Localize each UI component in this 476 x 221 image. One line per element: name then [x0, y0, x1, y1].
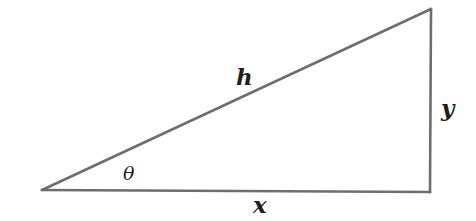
opposite-label: y: [440, 94, 456, 121]
hypotenuse-label: h: [236, 63, 253, 90]
adjacent-label: x: [252, 191, 267, 218]
right-triangle-diagram: h y θ x: [0, 0, 476, 221]
angle-label: θ: [123, 162, 135, 184]
adjacent-side: [42, 190, 430, 192]
opposite-side: [430, 9, 431, 192]
triangle: [42, 9, 431, 192]
hypotenuse-side: [42, 9, 431, 190]
